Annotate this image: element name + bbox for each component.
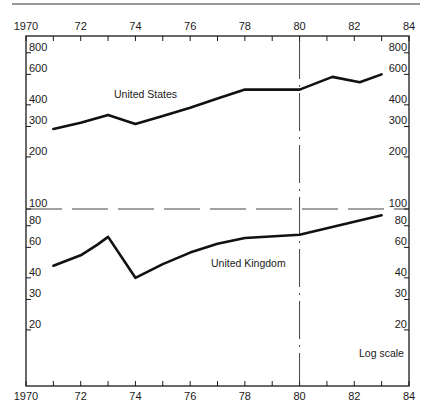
y-tick-label-right: 200	[389, 145, 407, 157]
y-tick-label-left: 40	[29, 266, 41, 278]
series-lines	[53, 74, 381, 277]
x-tick-label-top: 84	[403, 20, 415, 32]
x-tick-label-top: 80	[293, 20, 305, 32]
reference-lines	[26, 41, 409, 381]
x-tick-label-bottom: 72	[75, 390, 87, 402]
x-tick-label-top: 82	[348, 20, 360, 32]
x-tick-label-bottom: 78	[239, 390, 251, 402]
y-tick-label-left: 300	[29, 114, 47, 126]
x-tick-label-top: 1970	[14, 20, 38, 32]
x-axis: 197019707272747476767878808082828484	[14, 20, 415, 402]
x-tick-label-bottom: 74	[129, 390, 141, 402]
y-tick-label-left: 80	[29, 214, 41, 226]
plot-frame	[26, 36, 409, 386]
series-label-united-states: United States	[114, 88, 177, 100]
y-tick-label-right: 600	[389, 62, 407, 74]
y-tick-label-right: 400	[389, 93, 407, 105]
x-tick-label-bottom: 82	[348, 390, 360, 402]
series-line-united-states	[53, 74, 381, 129]
y-tick-label-left: 400	[29, 93, 47, 105]
series-label-united-kingdom: United Kingdom	[211, 257, 286, 269]
y-tick-label-left: 800	[29, 41, 47, 53]
x-tick-label-bottom: 1970	[14, 390, 38, 402]
y-tick-label-left: 20	[29, 318, 41, 330]
y-axis: 8008006006004004003003002002001001008080…	[26, 41, 409, 330]
plot-border	[26, 36, 409, 386]
y-tick-label-right: 300	[389, 114, 407, 126]
y-tick-label-right: 30	[395, 287, 407, 299]
x-tick-label-bottom: 80	[293, 390, 305, 402]
y-tick-label-right: 20	[395, 318, 407, 330]
y-tick-label-right: 80	[395, 214, 407, 226]
y-tick-label-left: 60	[29, 235, 41, 247]
y-tick-label-left: 200	[29, 145, 47, 157]
x-tick-label-top: 72	[75, 20, 87, 32]
line-chart: 197019707272747476767878808082828484 800…	[0, 0, 431, 409]
y-tick-label-left: 30	[29, 287, 41, 299]
y-tick-label-right: 100	[389, 197, 407, 209]
x-tick-label-bottom: 76	[184, 390, 196, 402]
y-tick-label-left: 100	[29, 197, 47, 209]
x-tick-label-top: 78	[239, 20, 251, 32]
y-tick-label-left: 600	[29, 62, 47, 74]
x-tick-label-bottom: 84	[403, 390, 415, 402]
x-tick-label-top: 76	[184, 20, 196, 32]
y-tick-label-right: 40	[395, 266, 407, 278]
x-tick-label-top: 74	[129, 20, 141, 32]
log-scale-note: Log scale	[359, 347, 404, 359]
y-tick-label-right: 60	[395, 235, 407, 247]
y-tick-label-right: 800	[389, 41, 407, 53]
